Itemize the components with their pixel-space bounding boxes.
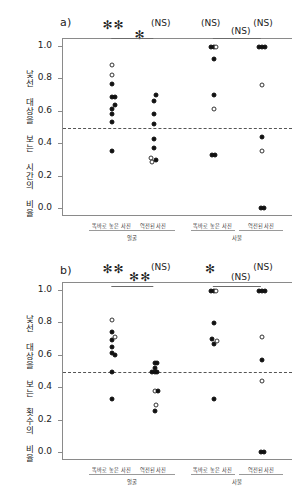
panel-b-label: b) (60, 264, 72, 277)
y-tick-label: 0.4 (28, 137, 52, 147)
figure-root: a) 낯선 대상을 보는 시간의 비율 1.00.80.60.40.20.0✻✻… (0, 0, 294, 493)
y-tick-mark (58, 290, 62, 291)
x-category-label: 똑바로 놓은 사진 (92, 222, 130, 229)
x-group-label: 얼굴 (127, 234, 137, 242)
panel-a-label: a) (60, 16, 71, 29)
y-tick-label: 0.2 (28, 414, 52, 424)
data-point (153, 157, 158, 162)
data-point (262, 289, 267, 294)
y-tick-mark (58, 46, 62, 47)
y-tick-label: 0.0 (28, 446, 52, 456)
comparison-bar (111, 38, 152, 39)
y-tick-label: 1.0 (28, 40, 52, 50)
significance-annotation: ✻✻ (129, 270, 151, 284)
data-point (155, 388, 160, 393)
y-tick-label: 0.8 (28, 316, 52, 326)
x-category-rule (131, 230, 175, 231)
x-category-label: 역전된 사진 (248, 466, 275, 473)
data-point (112, 352, 117, 357)
data-point (109, 112, 114, 117)
data-point (214, 339, 219, 344)
y-tick-mark (58, 322, 62, 323)
data-point (214, 45, 219, 50)
y-tick-mark (58, 111, 62, 112)
y-tick-label: 0.4 (28, 381, 52, 391)
x-category-label: 역전된 사진 (140, 466, 167, 473)
data-point (113, 335, 118, 340)
data-point (109, 396, 114, 401)
data-point (259, 378, 264, 383)
x-category-rule (191, 474, 235, 475)
y-tick-mark (58, 420, 62, 421)
y-tick-label: 1.0 (28, 284, 52, 294)
y-tick-mark (58, 143, 62, 144)
data-point (259, 335, 264, 340)
data-point (259, 149, 264, 154)
y-tick-mark (58, 355, 62, 356)
x-category-label: 역전된 사진 (140, 222, 167, 229)
data-point (154, 403, 159, 408)
panel-b: b) 낯선 대상을 보는 횟수의 비율 1.00.80.60.40.20.0✻✻… (0, 248, 294, 493)
panel-b-plot-area (62, 282, 292, 460)
data-point (211, 320, 216, 325)
data-point (261, 206, 266, 211)
x-category-label: 똑바로 놓은 사진 (193, 222, 231, 229)
significance-annotation: ✻ (135, 28, 146, 42)
significance-annotation: (NS) (253, 262, 272, 272)
data-point (109, 344, 114, 349)
data-point (213, 152, 218, 157)
data-point (262, 45, 267, 50)
y-tick-label: 0.6 (28, 105, 52, 115)
data-point (155, 370, 160, 375)
x-group-label: 얼굴 (127, 478, 137, 486)
y-tick-label: 0.8 (28, 72, 52, 82)
data-point (211, 396, 216, 401)
x-category-rule (239, 474, 283, 475)
significance-annotation: (NS) (151, 18, 170, 28)
x-category-rule (191, 230, 235, 231)
x-category-label: 똑바로 놓은 사진 (193, 466, 231, 473)
x-group-label: 사물 (232, 478, 242, 486)
data-point (259, 83, 264, 88)
x-category-rule (239, 230, 283, 231)
chance-reference-line (63, 128, 292, 129)
comparison-bar (111, 286, 152, 287)
y-tick-mark (58, 208, 62, 209)
x-category-label: 역전된 사진 (248, 222, 275, 229)
data-point (109, 120, 114, 125)
x-category-label: 똑바로 놓은 사진 (92, 466, 130, 473)
comparison-bar (213, 38, 261, 39)
data-point (151, 99, 156, 104)
y-tick-mark (58, 176, 62, 177)
data-point (152, 408, 157, 413)
y-tick-label: 0.0 (28, 202, 52, 212)
y-tick-mark (58, 78, 62, 79)
y-tick-label: 0.2 (28, 170, 52, 180)
data-point (113, 95, 118, 100)
data-point (110, 318, 115, 323)
panel-a: a) 낯선 대상을 보는 시간의 비율 1.00.80.60.40.20.0✻✻… (0, 0, 294, 248)
data-point (154, 92, 159, 97)
x-group-label: 사물 (232, 234, 242, 242)
data-point (151, 137, 156, 142)
data-point (109, 370, 114, 375)
significance-annotation: (NS) (231, 26, 250, 36)
data-point (214, 289, 219, 294)
data-point (109, 149, 114, 154)
significance-annotation: (NS) (151, 262, 170, 272)
data-point (110, 82, 115, 87)
y-tick-label: 0.6 (28, 349, 52, 359)
data-point (151, 146, 156, 151)
significance-annotation: ✻✻ (102, 18, 124, 32)
x-category-rule (89, 230, 133, 231)
data-point (261, 450, 266, 455)
data-point (151, 121, 156, 126)
chance-reference-line (63, 372, 292, 373)
significance-annotation: (NS) (201, 18, 220, 28)
panel-a-plot-area (62, 38, 292, 216)
data-point (259, 357, 264, 362)
x-category-rule (89, 474, 133, 475)
significance-annotation: ✻ (205, 262, 216, 276)
y-tick-mark (58, 452, 62, 453)
data-point (211, 107, 216, 112)
